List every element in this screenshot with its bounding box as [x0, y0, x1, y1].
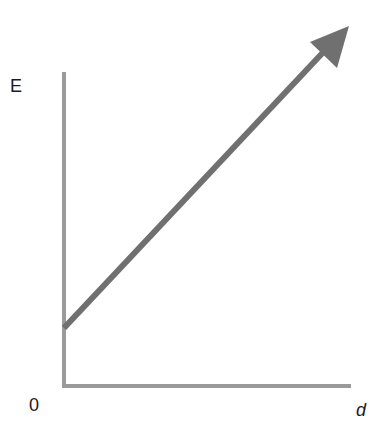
y-axis-label: E [10, 76, 22, 97]
x-axis-label: d [356, 400, 366, 421]
graph-canvas [0, 0, 389, 435]
origin-label: 0 [29, 395, 39, 416]
energy-line [64, 45, 330, 328]
